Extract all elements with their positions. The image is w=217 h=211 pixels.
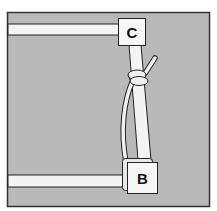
bottom-bar <box>8 175 126 187</box>
knot <box>128 70 148 86</box>
block-c: C <box>119 19 146 46</box>
block-c-label: C <box>127 24 138 41</box>
block-b: B <box>123 159 158 194</box>
diagram: C B <box>0 0 217 211</box>
block-b-label: B <box>137 170 148 187</box>
top-bar <box>8 24 120 35</box>
